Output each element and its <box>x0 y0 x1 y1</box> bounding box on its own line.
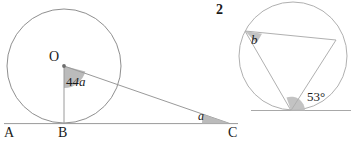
center-point-o <box>62 64 66 68</box>
label-point-c: C <box>228 126 237 140</box>
right-diagram <box>239 2 351 111</box>
left-diagram <box>4 9 238 124</box>
label-center-o: O <box>49 50 59 64</box>
label-problem-number: 2 <box>216 3 223 17</box>
geometry-figure <box>0 0 351 143</box>
right-circle <box>239 2 347 110</box>
angle-wedge-a <box>202 114 230 124</box>
label-point-a: A <box>4 126 14 140</box>
label-point-b: B <box>58 126 67 140</box>
label-angle-53: 53° <box>307 90 325 103</box>
label-angle-b: b <box>251 33 258 46</box>
label-angle-a: a <box>198 110 204 122</box>
label-angle-4a-variable: 4a <box>73 74 86 89</box>
label-angle-4a: 44a <box>66 75 86 88</box>
